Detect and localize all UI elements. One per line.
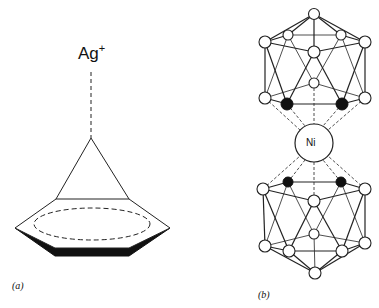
ag-symbol: Ag — [78, 44, 99, 63]
caption-b: (b) — [258, 289, 270, 300]
ag-ion-label: Ag+ — [78, 44, 105, 64]
cone-right-edge — [91, 138, 129, 199]
panel-a-diagram — [15, 72, 170, 256]
caption-a: (a) — [12, 280, 24, 291]
ni-label: Ni — [306, 137, 315, 148]
cone-left-edge — [56, 138, 91, 199]
upper-cage-edges — [265, 14, 365, 104]
figure-canvas — [0, 0, 379, 308]
ag-charge: + — [99, 42, 105, 54]
